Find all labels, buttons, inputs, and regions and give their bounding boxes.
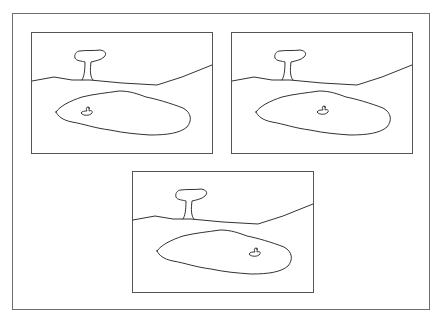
landscape-drawing <box>232 33 412 153</box>
hill-line <box>232 65 412 85</box>
scene-panel-1 <box>31 32 213 154</box>
pond-outline <box>157 230 291 274</box>
landscape-drawing <box>32 33 212 153</box>
landscape-drawing <box>133 172 313 292</box>
scene-panel-3 <box>132 171 314 293</box>
tree-icon <box>275 50 306 80</box>
hill-line <box>133 204 313 224</box>
tree-icon <box>176 189 207 219</box>
duck-icon <box>81 107 92 115</box>
pond-outline <box>56 91 190 135</box>
hill-line <box>32 65 212 85</box>
duck-icon <box>317 106 328 114</box>
tree-icon <box>75 50 106 80</box>
duck-icon <box>249 248 260 256</box>
scene-panel-2 <box>231 32 413 154</box>
pond-outline <box>256 91 390 135</box>
